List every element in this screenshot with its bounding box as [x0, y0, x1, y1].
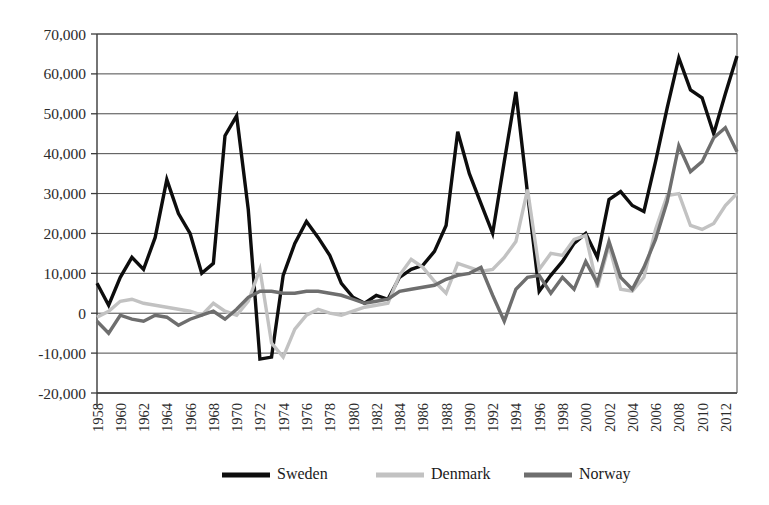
x-tick-label: 1982: [369, 403, 385, 432]
y-tick-label: 10,000: [43, 265, 86, 282]
y-tick-label: 50,000: [43, 105, 86, 122]
x-tick-label: 2010: [695, 403, 711, 432]
x-tick-label: 2012: [718, 403, 734, 432]
chart-container: 70,00060,00050,00040,00030,00020,00010,0…: [0, 0, 769, 505]
y-axis-ticks: [91, 34, 97, 393]
x-tick-label: 1974: [276, 402, 292, 432]
y-tick-label: 40,000: [43, 145, 86, 162]
x-tick-label: 1978: [322, 403, 338, 432]
x-tick-label: 2008: [671, 403, 687, 432]
x-tick-label: 1988: [439, 403, 455, 432]
x-tick-label: 1980: [346, 403, 362, 432]
x-tick-label: 1990: [462, 403, 478, 432]
x-tick-label: 1968: [206, 403, 222, 432]
y-tick-label: -20,000: [38, 385, 86, 402]
y-tick-label: 70,000: [43, 26, 86, 43]
gridlines: [97, 34, 737, 393]
x-tick-label: 2006: [648, 403, 664, 432]
x-tick-label: 1970: [229, 403, 245, 432]
x-tick-label: 2004: [625, 402, 641, 432]
x-axis-labels: 1958196019621964196619681970197219741976…: [90, 402, 734, 432]
legend-label-denmark: Denmark: [431, 465, 491, 482]
x-tick-label: 1960: [113, 403, 129, 432]
chart-legend: SwedenDenmarkNorway: [222, 465, 631, 483]
line-chart: 70,00060,00050,00040,00030,00020,00010,0…: [0, 0, 769, 505]
y-tick-label: 60,000: [43, 65, 86, 82]
y-tick-label: 0: [78, 305, 86, 322]
x-tick-label: 1972: [252, 403, 268, 432]
y-tick-label: -10,000: [38, 345, 86, 362]
x-tick-label: 1958: [90, 403, 106, 432]
x-tick-label: 1986: [415, 403, 431, 432]
x-tick-label: 1976: [299, 403, 315, 432]
x-tick-label: 1992: [485, 403, 501, 432]
x-tick-label: 2000: [578, 403, 594, 432]
x-tick-label: 1984: [392, 402, 408, 432]
series-line-norway: [97, 128, 737, 333]
x-tick-label: 1996: [532, 403, 548, 432]
x-tick-label: 2002: [602, 403, 618, 432]
x-tick-label: 1966: [183, 403, 199, 432]
x-tick-label: 1964: [159, 402, 175, 432]
legend-label-norway: Norway: [579, 465, 631, 483]
y-tick-label: 20,000: [43, 225, 86, 242]
x-tick-label: 1998: [555, 403, 571, 432]
y-tick-label: 30,000: [43, 185, 86, 202]
axes: [97, 34, 737, 407]
legend-label-sweden: Sweden: [277, 465, 328, 482]
x-tick-label: 1962: [136, 403, 152, 432]
y-axis-labels: 70,00060,00050,00040,00030,00020,00010,0…: [38, 26, 86, 402]
x-tick-label: 1994: [508, 402, 524, 432]
